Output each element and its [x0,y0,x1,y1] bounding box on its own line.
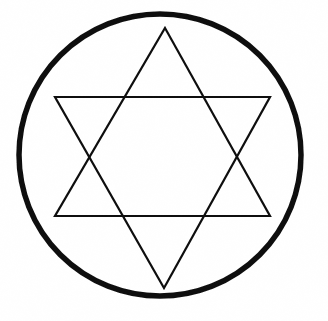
hexagram-figure [0,0,328,321]
figure-canvas [0,0,328,321]
paper-grain-overlay [0,0,328,321]
